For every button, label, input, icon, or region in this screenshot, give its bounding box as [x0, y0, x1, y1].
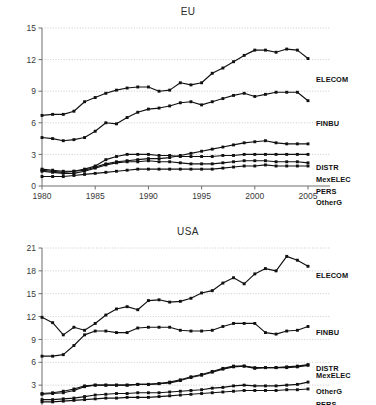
marker-FINBU	[307, 325, 310, 328]
marker-PERS	[243, 389, 246, 392]
marker-MexELEC	[179, 379, 182, 382]
marker-FINBU	[94, 130, 97, 133]
marker-OtherG	[200, 168, 203, 171]
marker-OtherG	[115, 170, 118, 173]
marker-MexELEC	[115, 155, 118, 158]
marker-OtherG	[72, 174, 75, 177]
y-tick-label-15: 15	[27, 23, 37, 33]
marker-MexELEC	[136, 153, 139, 156]
y-tick-label-0: 0	[31, 181, 36, 191]
marker-ELECOM	[296, 259, 299, 262]
marker-FINBU	[147, 326, 150, 329]
marker-MexELEC	[200, 155, 203, 158]
marker-OtherG	[221, 167, 224, 170]
marker-PERS	[211, 391, 214, 394]
marker-OtherG	[51, 175, 54, 178]
marker-OtherG	[158, 168, 161, 171]
marker-FINBU	[296, 91, 299, 94]
marker-ELECOM	[243, 282, 246, 285]
marker-FINBU	[136, 327, 139, 330]
marker-ELECOM	[179, 81, 182, 84]
marker-OtherG	[168, 391, 171, 394]
marker-ELECOM	[190, 297, 193, 300]
marker-ELECOM	[83, 329, 86, 332]
marker-MexELEC	[51, 391, 54, 394]
plot-area-usa: 036912151821198019851990199520002005ELEC…	[0, 242, 376, 405]
marker-OtherG	[296, 383, 299, 386]
marker-OtherG	[83, 173, 86, 176]
marker-FINBU	[41, 355, 44, 358]
marker-PERS	[94, 397, 97, 400]
marker-ELECOM	[136, 86, 139, 89]
series-line-FINBU	[42, 92, 308, 140]
marker-FINBU	[115, 122, 118, 125]
series-label-MexELEC: MexELEC	[316, 175, 351, 184]
marker-MexELEC	[190, 376, 193, 379]
marker-OtherG	[179, 390, 182, 393]
marker-ELECOM	[104, 92, 107, 95]
marker-ELECOM	[158, 298, 161, 301]
marker-ELECOM	[243, 54, 246, 57]
marker-PERS	[136, 396, 139, 399]
marker-FINBU	[62, 139, 65, 142]
marker-FINBU	[104, 330, 107, 333]
marker-ELECOM	[275, 51, 278, 54]
marker-FINBU	[253, 322, 256, 325]
x-tick-label-2005: 2005	[299, 191, 318, 201]
marker-PERS	[126, 160, 129, 163]
marker-ELECOM	[232, 276, 235, 279]
plot-svg-eu: 03691215198019851990199520002005ELECOMFI…	[0, 22, 376, 212]
marker-ELECOM	[211, 72, 214, 75]
marker-OtherG	[221, 386, 224, 389]
marker-MexELEC	[158, 382, 161, 385]
marker-OtherG	[41, 175, 44, 178]
marker-MexELEC	[168, 154, 171, 157]
marker-ELECOM	[104, 314, 107, 317]
marker-MexELEC	[136, 383, 139, 386]
marker-PERS	[72, 399, 75, 402]
series-line-ELECOM	[42, 256, 308, 334]
plot-area-eu: 03691215198019851990199520002005ELECOMFI…	[0, 22, 376, 212]
marker-ELECOM	[115, 308, 118, 311]
marker-MexELEC	[200, 374, 203, 377]
marker-MexELEC	[147, 153, 150, 156]
marker-DISTR	[307, 142, 310, 145]
marker-OtherG	[211, 168, 214, 171]
marker-OtherG	[179, 168, 182, 171]
marker-PERS	[62, 172, 65, 175]
marker-MexELEC	[307, 153, 310, 156]
series-label-MexELEC: MexELEC	[316, 371, 351, 380]
marker-PERS	[104, 397, 107, 400]
marker-ELECOM	[126, 305, 129, 308]
marker-OtherG	[243, 165, 246, 168]
x-tick-label-2000: 2000	[245, 191, 264, 201]
marker-MexELEC	[126, 153, 129, 156]
marker-MexELEC	[296, 365, 299, 368]
marker-ELECOM	[168, 301, 171, 304]
marker-ELECOM	[275, 269, 278, 272]
chart-eu: EU 03691215198019851990199520002005ELECO…	[0, 0, 376, 218]
series-line-DISTR	[42, 365, 308, 395]
marker-MexELEC	[211, 155, 214, 158]
x-tick-label-1990: 1990	[139, 191, 158, 201]
marker-FINBU	[126, 116, 129, 119]
marker-MexELEC	[211, 371, 214, 374]
marker-DISTR	[275, 141, 278, 144]
marker-PERS	[190, 162, 193, 165]
x-tick-label-1985: 1985	[86, 191, 105, 201]
marker-DISTR	[190, 152, 193, 155]
marker-OtherG	[232, 166, 235, 169]
marker-ELECOM	[158, 90, 161, 93]
marker-OtherG	[94, 172, 97, 175]
marker-PERS	[41, 170, 44, 173]
marker-PERS	[83, 170, 86, 173]
marker-PERS	[200, 162, 203, 165]
marker-PERS	[115, 397, 118, 400]
marker-ELECOM	[126, 87, 129, 90]
series-line-MexELEC	[42, 365, 308, 393]
marker-OtherG	[285, 384, 288, 387]
marker-ELECOM	[62, 113, 65, 116]
marker-OtherG	[253, 165, 256, 168]
marker-MexELEC	[243, 365, 246, 368]
marker-FINBU	[285, 91, 288, 94]
